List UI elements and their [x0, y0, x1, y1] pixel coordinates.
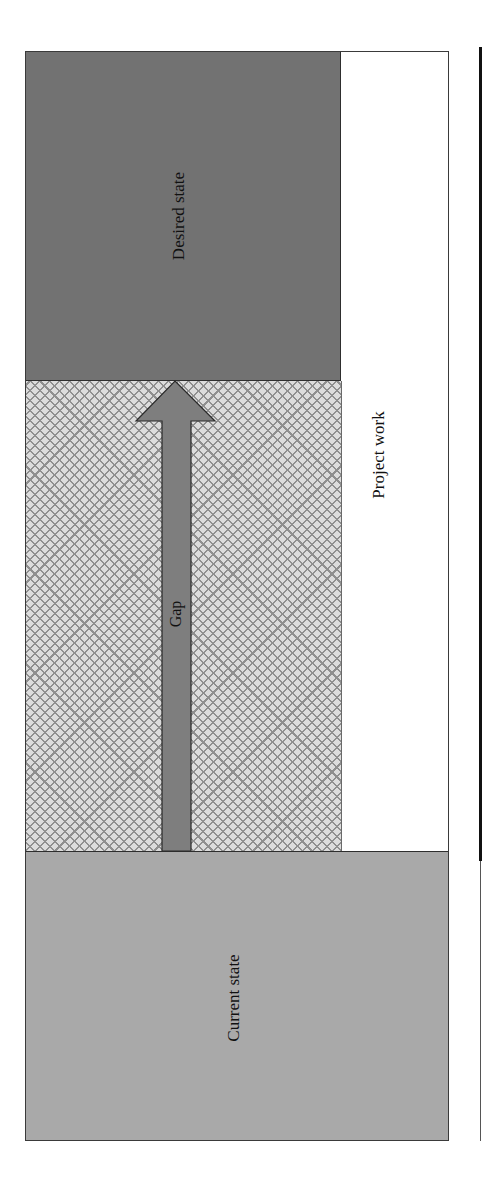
current-state-label: Current state [225, 954, 242, 1041]
page-edge-rule-faint [480, 861, 481, 1141]
page-edge-rule [479, 47, 482, 861]
gap-label: Gap [168, 601, 184, 628]
project-work-label: Project work [370, 411, 387, 498]
desired-state-label: Desired state [170, 172, 187, 260]
